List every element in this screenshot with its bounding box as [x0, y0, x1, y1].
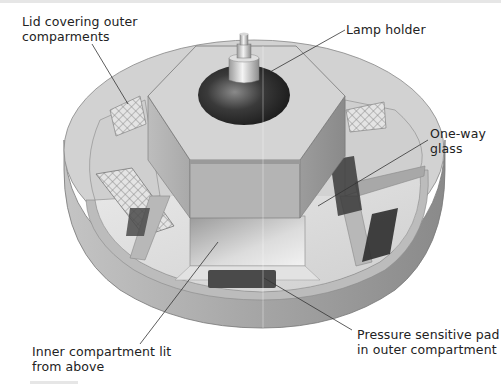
bottom-mark — [30, 381, 78, 384]
label-lid: Lid covering outer comparments — [22, 14, 138, 44]
label-one-way-glass: One-way glass — [430, 126, 486, 156]
label-pressure-pad: Pressure sensitive pad in outer compartm… — [357, 327, 500, 357]
label-lamp-holder: Lamp holder — [346, 22, 426, 37]
label-inner-compartment: Inner compartment lit from above — [32, 344, 171, 374]
